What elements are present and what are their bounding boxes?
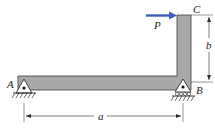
label-dim-b: b xyxy=(206,39,212,51)
dimension-a xyxy=(24,103,183,122)
label-point-a: A xyxy=(6,78,14,90)
rollers-icon xyxy=(175,92,190,95)
frame-diagram: C P b A B a xyxy=(0,0,215,132)
frame-member xyxy=(18,15,191,90)
ground-hatch-b-icon xyxy=(171,96,194,101)
ground-hatch-a-icon xyxy=(12,93,35,98)
force-arrow-p-icon xyxy=(146,12,177,20)
label-dim-a: a xyxy=(98,110,104,122)
label-point-c: C xyxy=(193,3,201,15)
label-force-p: P xyxy=(153,19,161,31)
label-point-b: B xyxy=(196,84,203,96)
